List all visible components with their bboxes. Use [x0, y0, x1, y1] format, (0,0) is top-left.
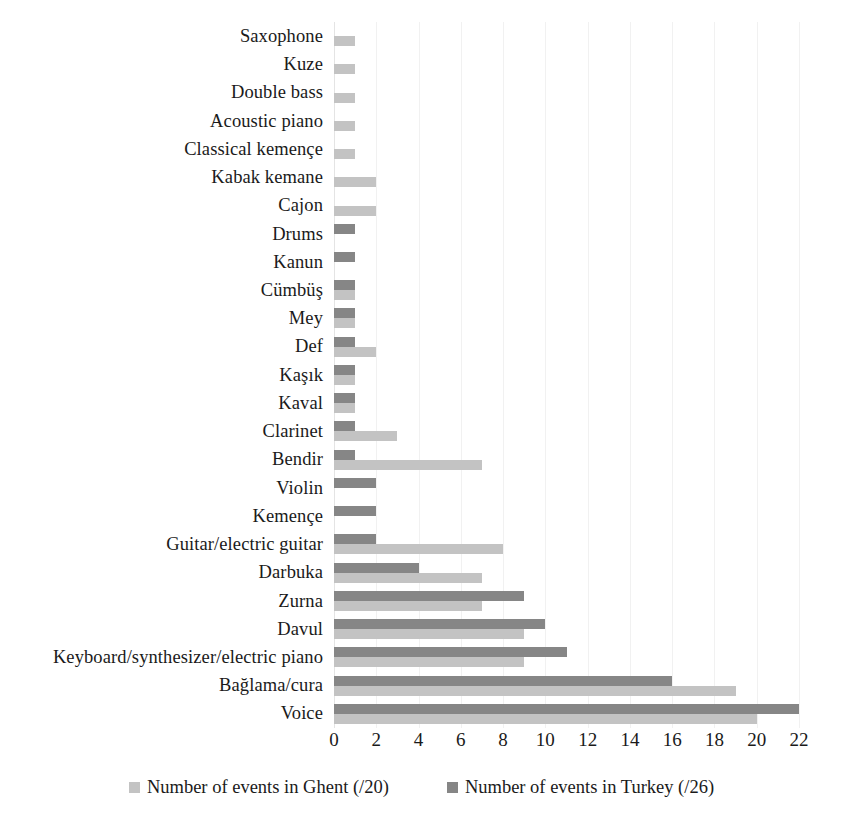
bar-turkey [334, 478, 376, 488]
bar-turkey [334, 704, 799, 714]
bar-ghent [334, 177, 376, 187]
category-label: Cajon [0, 191, 330, 219]
bar-turkey [334, 421, 355, 431]
x-tick-label: 18 [705, 730, 724, 749]
bar-turkey [334, 224, 355, 234]
bar-turkey [334, 591, 524, 601]
category-label: Saxophone [0, 22, 330, 50]
bar-turkey [334, 365, 355, 375]
category-label: Drums [0, 220, 330, 248]
bar-row [334, 671, 799, 699]
bar-row [334, 361, 799, 389]
category-label: Kuze [0, 50, 330, 78]
category-label: Bağlama/cura [0, 671, 330, 699]
category-label: Cümbüş [0, 276, 330, 304]
bar-row [334, 417, 799, 445]
bar-turkey [334, 280, 355, 290]
bar-turkey [334, 676, 672, 686]
legend-item[interactable]: Number of events in Turkey (/26) [447, 778, 714, 797]
bar-turkey [334, 337, 355, 347]
bar-row [334, 220, 799, 248]
bar-row [334, 558, 799, 586]
bar-ghent [334, 403, 355, 413]
bar-row [334, 276, 799, 304]
bar-ghent [334, 544, 503, 554]
bar-row [334, 530, 799, 558]
bar-row [334, 107, 799, 135]
category-label: Def [0, 333, 330, 361]
bar-ghent [334, 431, 397, 441]
bar-ghent [334, 318, 355, 328]
bar-turkey [334, 534, 376, 544]
category-label: Clarinet [0, 417, 330, 445]
bar-row [334, 502, 799, 530]
category-label: Kanun [0, 248, 330, 276]
bar-row [334, 587, 799, 615]
category-label: Classical kemençe [0, 135, 330, 163]
x-tick-label: 10 [536, 730, 555, 749]
bar-row [334, 135, 799, 163]
bar-row [334, 389, 799, 417]
legend-swatch-icon [447, 782, 458, 793]
x-axis: 0246810121416182022 [334, 730, 799, 760]
bar-row [334, 22, 799, 50]
bar-ghent [334, 206, 376, 216]
bar-ghent [334, 290, 355, 300]
bar-row [334, 643, 799, 671]
bar-turkey [334, 619, 545, 629]
bar-turkey [334, 393, 355, 403]
bar-row [334, 333, 799, 361]
bar-row [334, 163, 799, 191]
category-label: Voice [0, 700, 330, 728]
bar-ghent [334, 629, 524, 639]
bar-row [334, 50, 799, 78]
category-label: Darbuka [0, 558, 330, 586]
bar-row [334, 446, 799, 474]
x-tick-label: 20 [747, 730, 766, 749]
category-label: Davul [0, 615, 330, 643]
bar-row [334, 248, 799, 276]
bar-turkey [334, 450, 355, 460]
bar-ghent [334, 714, 757, 724]
bar-turkey [334, 308, 355, 318]
bar-chart: SaxophoneKuzeDouble bassAcoustic pianoCl… [0, 0, 843, 829]
bar-turkey [334, 506, 376, 516]
category-label: Zurna [0, 587, 330, 615]
category-label: Kaşık [0, 361, 330, 389]
bar-ghent [334, 601, 482, 611]
bar-ghent [334, 460, 482, 470]
gridline [799, 22, 800, 728]
legend-item[interactable]: Number of events in Ghent (/20) [129, 778, 389, 797]
x-tick-label: 16 [663, 730, 682, 749]
x-tick-label: 0 [329, 730, 339, 749]
bar-ghent [334, 64, 355, 74]
x-tick-label: 8 [498, 730, 508, 749]
bar-row [334, 304, 799, 332]
category-label: Keyboard/synthesizer/electric piano [0, 643, 330, 671]
x-tick-label: 14 [620, 730, 639, 749]
bar-ghent [334, 347, 376, 357]
category-label: Double bass [0, 78, 330, 106]
category-label: Acoustic piano [0, 107, 330, 135]
bar-ghent [334, 686, 736, 696]
category-label: Kabak kemane [0, 163, 330, 191]
category-axis: SaxophoneKuzeDouble bassAcoustic pianoCl… [0, 22, 330, 728]
bar-turkey [334, 252, 355, 262]
bar-row [334, 615, 799, 643]
bar-row [334, 191, 799, 219]
bar-ghent [334, 375, 355, 385]
x-tick-label: 6 [456, 730, 466, 749]
category-label: Mey [0, 304, 330, 332]
legend-swatch-icon [129, 782, 140, 793]
bar-row [334, 78, 799, 106]
bar-row [334, 700, 799, 728]
legend-label: Number of events in Turkey (/26) [465, 778, 714, 797]
x-tick-label: 4 [414, 730, 424, 749]
x-tick-label: 22 [790, 730, 809, 749]
x-tick-label: 2 [372, 730, 382, 749]
category-label: Kaval [0, 389, 330, 417]
plot-area [334, 22, 799, 728]
bar-ghent [334, 121, 355, 131]
bar-ghent [334, 36, 355, 46]
bar-ghent [334, 93, 355, 103]
